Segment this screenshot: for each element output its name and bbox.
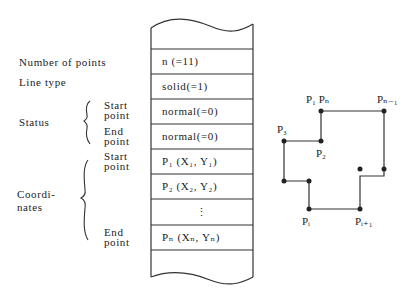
cell-ellipsis: ⋮ — [150, 199, 253, 224]
point-label-p1-pn: P₁ Pₙ — [306, 93, 330, 106]
label-status: Status — [19, 117, 50, 128]
point-label-pi-plus-1: Pᵢ₊₁ — [355, 215, 373, 228]
label-number-of-points: Number of points — [19, 57, 106, 68]
label-status-end-point: End point — [104, 126, 130, 146]
label-coordinates: Coordi- nates — [17, 188, 55, 214]
brace-icon — [81, 101, 90, 240]
cell-status-start: normal(=0) — [150, 99, 253, 124]
label-coord-end-point: End point — [104, 227, 130, 247]
cell-coord-pn: Pₙ (Xₙ, Yₙ) — [150, 225, 253, 250]
cell-number-of-points: n (=11) — [150, 49, 253, 74]
label-line-type: Line type — [19, 77, 66, 88]
label-status-start-point: Start point — [104, 100, 130, 120]
label-coord-start-point: Start point — [104, 151, 130, 171]
polyline-figure — [282, 109, 387, 212]
cell-coord-p1: P₁ (X₁, Y₁) — [150, 149, 253, 174]
point-label-pi: Pᵢ — [302, 215, 310, 227]
point-label-pn-minus-1: Pₙ₋₁ — [377, 93, 398, 106]
cell-status-end: normal(=0) — [150, 124, 253, 149]
point-label-p3: P₃ — [277, 123, 287, 135]
point-label-p2: P₂ — [316, 147, 326, 159]
cell-coord-p2: P₂ (X₂, Y₂) — [150, 174, 253, 199]
cell-line-type: solid(=1) — [150, 74, 253, 99]
